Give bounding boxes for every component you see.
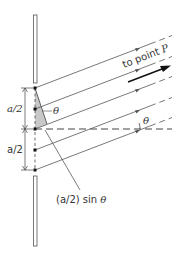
half-width-label-top: a/2 [7, 103, 23, 114]
source-dot-4 [34, 149, 37, 152]
ray-4-dashed [150, 98, 172, 107]
half-width-label-bottom: a/2 [7, 144, 23, 155]
path-difference-leader-line [45, 130, 80, 190]
source-dot-3 [34, 128, 37, 131]
source-dot-2 [34, 108, 37, 111]
lower-barrier-wall [34, 176, 38, 246]
upper-barrier-wall [34, 15, 38, 83]
ray-1-dashed [150, 36, 172, 45]
dimension-markers [21, 88, 33, 170]
to-point-label: to point P [121, 42, 171, 70]
slit-diffraction-diagram: to point P θ θ a/2 a/2 (a/2) sin θ [0, 0, 181, 257]
path-difference-label: (a/2) sin θ [56, 194, 106, 205]
ray-2 [35, 65, 150, 109]
theta-label-upper: θ [53, 105, 59, 116]
ray-3-dashed [150, 77, 172, 86]
angle-arc-lower [139, 123, 140, 129]
theta-label-lower: θ [143, 115, 149, 126]
direction-arrow-line [128, 69, 162, 82]
source-dot-1 [34, 87, 37, 90]
source-dot-5 [34, 169, 37, 172]
ray-5-dashed [150, 118, 172, 127]
direction-arrow-head-icon [160, 66, 171, 73]
ray-5 [35, 126, 150, 170]
